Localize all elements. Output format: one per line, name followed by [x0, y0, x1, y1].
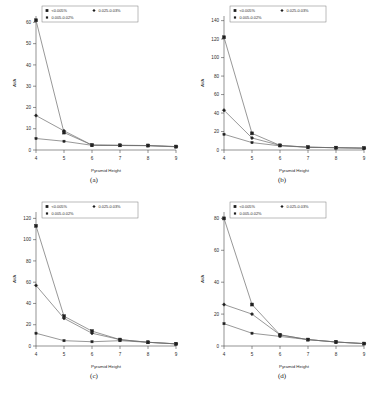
data-series	[222, 109, 365, 150]
data-series	[223, 36, 366, 150]
data-point-marker	[223, 217, 226, 220]
x-axis-ticks: 456789	[35, 346, 178, 357]
x-tick-label: 5	[251, 352, 254, 357]
y-tick-label: 140	[211, 18, 219, 23]
data-point-marker	[34, 114, 37, 117]
data-series	[223, 217, 366, 345]
legend-label-3: 0.005-0.02%	[240, 211, 263, 216]
legend-label-3: 0.005-0.02%	[52, 211, 75, 216]
x-axis-title: Pyramid Height	[91, 168, 122, 173]
data-series	[222, 303, 365, 345]
data-point-marker	[251, 132, 254, 135]
figure-panel-grid: 0102030405060456789Pyramid HeightAVA<0.0…	[0, 0, 376, 393]
panel-caption: (b)	[188, 176, 376, 184]
data-point-marker	[363, 147, 365, 149]
x-axis-title: Pyramid Height	[91, 364, 122, 369]
x-tick-label: 8	[147, 156, 150, 161]
data-point-marker	[35, 332, 37, 334]
y-tick-label: 120	[23, 216, 31, 221]
data-point-marker	[175, 343, 177, 345]
y-tick-label: 20	[26, 105, 32, 110]
x-axis-title: Pyramid Height	[279, 364, 310, 369]
legend-label-1: <0.005%	[52, 204, 68, 209]
y-tick-label: 100	[23, 237, 31, 242]
x-axis-title: Pyramid Height	[279, 168, 310, 173]
axes	[224, 16, 364, 150]
x-axis-ticks: 456789	[223, 346, 366, 357]
legend-label-1: <0.005%	[240, 204, 256, 209]
x-axis-ticks: 456789	[223, 150, 366, 161]
data-point-marker	[35, 224, 38, 227]
y-tick-label: 50	[26, 41, 32, 46]
x-tick-label: 5	[63, 352, 66, 357]
y-tick-label: 40	[26, 63, 32, 68]
data-point-marker	[147, 145, 149, 147]
data-series	[35, 137, 177, 147]
data-series	[35, 332, 177, 345]
data-series	[34, 114, 177, 148]
data-point-marker	[223, 133, 225, 135]
legend-label-1: <0.005%	[52, 8, 68, 13]
x-tick-label: 5	[251, 156, 254, 161]
y-tick-label: 20	[214, 312, 220, 317]
x-tick-label: 7	[119, 156, 122, 161]
data-point-marker	[307, 339, 309, 341]
y-tick-label: 40	[26, 301, 32, 306]
y-tick-label: 0	[216, 344, 219, 349]
x-tick-label: 6	[91, 352, 94, 357]
y-tick-label: 10	[26, 126, 32, 131]
x-axis-ticks: 456789	[35, 150, 178, 161]
legend-label-3: 0.005-0.02%	[52, 15, 75, 20]
y-tick-label: 60	[214, 92, 220, 97]
x-tick-label: 6	[279, 352, 282, 357]
data-point-marker	[222, 303, 225, 306]
y-tick-label: 80	[26, 259, 32, 264]
data-point-marker	[35, 137, 37, 139]
chart-panel-b: 020406080100120140456789Pyramid HeightAV…	[188, 0, 376, 196]
data-point-marker	[147, 341, 149, 343]
y-axis-ticks: 020406080	[214, 216, 224, 349]
y-tick-label: 40	[214, 111, 220, 116]
x-tick-label: 7	[307, 156, 310, 161]
data-point-marker	[119, 340, 121, 342]
axes	[224, 212, 364, 346]
x-tick-label: 8	[147, 352, 150, 357]
y-tick-label: 80	[214, 74, 220, 79]
x-tick-label: 6	[279, 156, 282, 161]
y-tick-label: 30	[26, 84, 32, 89]
legend: <0.005%0.025-0.03%0.005-0.02%	[230, 6, 326, 22]
x-tick-label: 4	[223, 352, 226, 357]
data-series	[223, 133, 365, 149]
x-tick-label: 7	[307, 352, 310, 357]
x-tick-label: 9	[175, 156, 178, 161]
y-tick-label: 40	[214, 280, 220, 285]
legend-label-2: 0.025-0.03%	[99, 8, 122, 13]
x-tick-label: 7	[119, 352, 122, 357]
chart-panel-a: 0102030405060456789Pyramid HeightAVA<0.0…	[0, 0, 188, 196]
y-tick-label: 0	[216, 148, 219, 153]
legend-label-3: 0.005-0.02%	[240, 15, 263, 20]
chart-panel-d: 020406080456789Pyramid HeightAVA<0.005%0…	[188, 196, 376, 392]
y-tick-label: 100	[211, 55, 219, 60]
data-point-marker	[307, 146, 309, 148]
x-tick-label: 5	[63, 156, 66, 161]
data-point-marker	[251, 332, 253, 334]
x-tick-label: 4	[223, 156, 226, 161]
x-tick-label: 4	[35, 156, 38, 161]
y-axis-ticks: 0102030405060	[26, 20, 36, 153]
y-tick-label: 60	[26, 20, 32, 25]
data-series	[35, 19, 178, 148]
x-tick-label: 6	[91, 156, 94, 161]
data-point-marker	[279, 335, 281, 337]
y-tick-label: 80	[214, 216, 220, 221]
data-point-marker	[335, 147, 337, 149]
x-tick-label: 9	[175, 352, 178, 357]
data-point-marker	[91, 341, 93, 343]
data-point-marker	[91, 144, 93, 146]
data-series	[34, 284, 177, 346]
y-axis-ticks: 020406080100120	[23, 216, 36, 349]
y-axis-title: AVA	[12, 275, 17, 283]
y-tick-label: 0	[28, 148, 31, 153]
legend: <0.005%0.025-0.03%0.005-0.02%	[42, 202, 138, 218]
y-tick-label: 60	[26, 280, 32, 285]
